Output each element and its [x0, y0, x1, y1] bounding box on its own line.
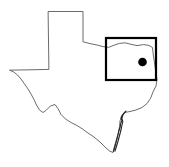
study-site-dot-marker	[138, 58, 147, 67]
texas-locator-map	[0, 0, 169, 167]
map-svg-canvas	[0, 0, 169, 167]
